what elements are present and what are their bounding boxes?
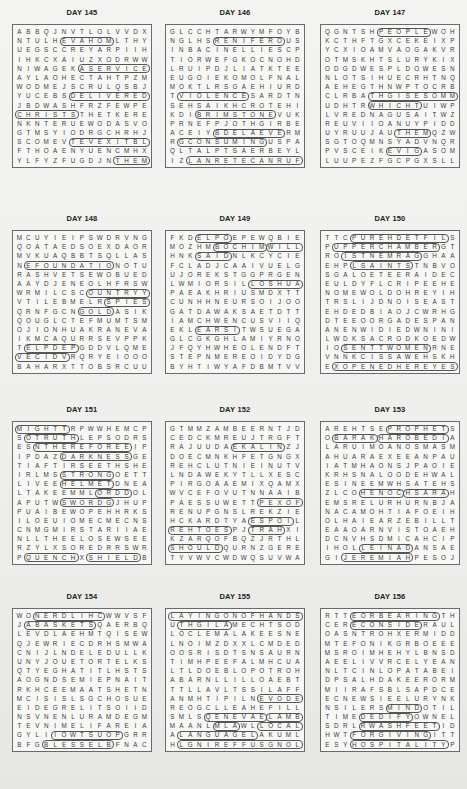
grid-letter: C bbox=[186, 334, 195, 343]
grid-letter: S bbox=[104, 297, 113, 306]
grid-letter: A bbox=[15, 498, 24, 507]
grid-letter: A bbox=[42, 64, 51, 73]
grid-letter: D bbox=[86, 156, 95, 165]
grid-letter: F bbox=[368, 685, 377, 694]
grid-letter: I bbox=[60, 128, 69, 137]
grid-letter: R bbox=[350, 433, 359, 442]
grid-letter: R bbox=[69, 442, 78, 451]
grid-letter: U bbox=[266, 553, 275, 562]
grid-letter: E bbox=[239, 352, 248, 361]
grid-letter: U bbox=[69, 334, 78, 343]
grid-letter: H bbox=[359, 534, 368, 543]
grid-letter: M bbox=[377, 553, 386, 562]
grid-letter: I bbox=[77, 611, 86, 620]
grid-letter: L bbox=[113, 343, 122, 352]
grid-letter: N bbox=[15, 36, 24, 45]
grid-letter: E bbox=[104, 334, 113, 343]
grid-letter: T bbox=[439, 424, 448, 433]
grid-letter: M bbox=[186, 657, 195, 666]
grid-letter: L bbox=[168, 629, 177, 638]
grid-letter: G bbox=[51, 666, 60, 675]
grid-letter: O bbox=[33, 137, 42, 146]
grid-letter: P bbox=[448, 534, 457, 543]
grid-letter: D bbox=[104, 119, 113, 128]
puzzle-title: DAY 149 bbox=[165, 214, 305, 224]
grid-letter: E bbox=[51, 488, 60, 497]
grid-letter: X bbox=[293, 479, 302, 488]
grid-letter: T bbox=[195, 362, 204, 371]
grid-letter: A bbox=[239, 629, 248, 638]
grid-letter: I bbox=[332, 685, 341, 694]
grid-row: FTHOAENYUENCMHX bbox=[15, 146, 149, 155]
grid-letter: Y bbox=[359, 279, 368, 288]
grid-row: GATDAWAKSAETDTT bbox=[168, 307, 302, 316]
grid-letter: R bbox=[439, 82, 448, 91]
grid-letter: U bbox=[403, 55, 412, 64]
grid-letter: I bbox=[275, 316, 284, 325]
grid-letter: L bbox=[15, 479, 24, 488]
grid-letter: C bbox=[359, 620, 368, 629]
grid-letter: A bbox=[95, 73, 104, 82]
grid-letter: E bbox=[131, 156, 140, 165]
grid-letter: S bbox=[86, 553, 95, 562]
grid-letter: E bbox=[248, 461, 257, 470]
grid-letter: P bbox=[341, 242, 350, 251]
grid-letter: I bbox=[448, 325, 457, 334]
grid-letter: O bbox=[15, 325, 24, 334]
grid-letter: D bbox=[213, 543, 222, 552]
grid-letter: L bbox=[430, 516, 439, 525]
grid-letter: I bbox=[60, 639, 69, 648]
grid-letter: O bbox=[421, 525, 430, 534]
grid-letter: R bbox=[213, 740, 222, 749]
grid-letter: T bbox=[323, 233, 332, 242]
grid-letter: P bbox=[230, 525, 239, 534]
grid-letter: H bbox=[113, 685, 122, 694]
grid-letter: N bbox=[421, 543, 430, 552]
grid-letter: E bbox=[186, 128, 195, 137]
grid-letter: E bbox=[439, 666, 448, 675]
grid-letter: K bbox=[239, 55, 248, 64]
grid-letter: A bbox=[448, 251, 457, 260]
grid-row: NTULHEVAHOMLTHY bbox=[15, 36, 149, 45]
grid-letter: I bbox=[430, 101, 439, 110]
grid-letter: E bbox=[293, 694, 302, 703]
grid-letter: H bbox=[204, 316, 213, 325]
grid-letter: P bbox=[168, 288, 177, 297]
grid-letter: N bbox=[60, 712, 69, 721]
grid-letter: B bbox=[69, 251, 78, 260]
grid-letter: S bbox=[385, 55, 394, 64]
grid-letter: B bbox=[213, 128, 222, 137]
grid-letter: R bbox=[230, 352, 239, 361]
grid-letter: R bbox=[86, 352, 95, 361]
grid-letter: D bbox=[131, 27, 140, 36]
grid-letter: R bbox=[77, 452, 86, 461]
grid-letter: L bbox=[323, 442, 332, 451]
grid-letter: E bbox=[412, 675, 421, 684]
grid-letter: E bbox=[95, 242, 104, 251]
grid-letter: F bbox=[412, 507, 421, 516]
grid-letter: A bbox=[204, 685, 213, 694]
grid-letter: P bbox=[222, 694, 231, 703]
grid-letter: S bbox=[284, 470, 293, 479]
grid-letter: P bbox=[122, 334, 131, 343]
grid-letter: J bbox=[60, 82, 69, 91]
grid-letter: T bbox=[332, 639, 341, 648]
grid-letter: H bbox=[248, 703, 257, 712]
grid-letter: E bbox=[131, 297, 140, 306]
grid-letter: Q bbox=[266, 233, 275, 242]
grid-letter: M bbox=[257, 242, 266, 251]
grid-letter: L bbox=[394, 685, 403, 694]
puzzle-title: DAY 155 bbox=[165, 592, 305, 602]
grid-letter: T bbox=[104, 461, 113, 470]
grid-letter: T bbox=[394, 128, 403, 137]
grid-letter: O bbox=[33, 516, 42, 525]
grid-letter: R bbox=[341, 721, 350, 730]
grid-letter: O bbox=[248, 73, 257, 82]
grid-letter: R bbox=[204, 516, 213, 525]
grid-letter: E bbox=[385, 27, 394, 36]
grid-letter: R bbox=[222, 433, 231, 442]
grid-letter: A bbox=[42, 362, 51, 371]
grid-letter: V bbox=[332, 110, 341, 119]
grid-letter: P bbox=[448, 740, 457, 749]
grid-letter: U bbox=[168, 270, 177, 279]
